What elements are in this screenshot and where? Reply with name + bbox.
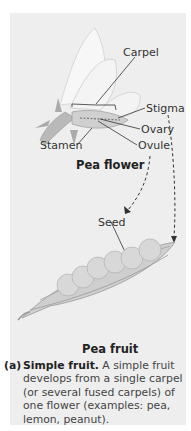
pea-fruit-title: Pea fruit xyxy=(82,342,138,356)
label-ovary: Ovary xyxy=(141,124,174,136)
label-ovule: Ovule xyxy=(138,140,170,152)
label-carpel: Carpel xyxy=(123,47,159,59)
figure-caption: (a) Simple fruit. A simple fruit develop… xyxy=(23,359,183,426)
pea-pod-illustration xyxy=(18,239,175,320)
pea-flower-title: Pea flower xyxy=(76,158,145,172)
label-stigma: Stigma xyxy=(146,103,185,115)
label-seed: Seed xyxy=(98,217,126,229)
caption-tag: (a) xyxy=(4,359,21,372)
caption-heading: Simple fruit. xyxy=(23,359,99,372)
label-stamen: Stamen xyxy=(40,140,83,152)
